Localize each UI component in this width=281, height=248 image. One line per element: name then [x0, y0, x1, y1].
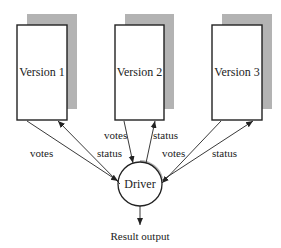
version-1-label: Version 1	[19, 65, 65, 79]
version-3-label: Version 3	[214, 65, 260, 79]
driver-label: Driver	[124, 177, 155, 191]
result-output-label: Result output	[111, 230, 170, 242]
version-2-label: Version 2	[117, 65, 163, 79]
v1-status-label: status	[97, 147, 122, 159]
v3-status-label: status	[212, 147, 237, 159]
n-version-programming-diagram: Version 1 Version 2 Version 3 Driver vot…	[0, 0, 281, 248]
version-2-box: Version 2	[115, 25, 164, 120]
version-1-box: Version 1	[17, 25, 67, 120]
v2-votes-arrow	[124, 121, 133, 163]
driver-node: Driver	[118, 162, 162, 206]
v3-votes-label: votes	[162, 147, 185, 159]
version-3-box: Version 3	[212, 25, 262, 120]
v2-status-label: status	[153, 129, 178, 141]
v1-votes-label: votes	[30, 147, 53, 159]
v2-status-arrow	[146, 121, 155, 163]
v2-votes-label: votes	[104, 129, 127, 141]
